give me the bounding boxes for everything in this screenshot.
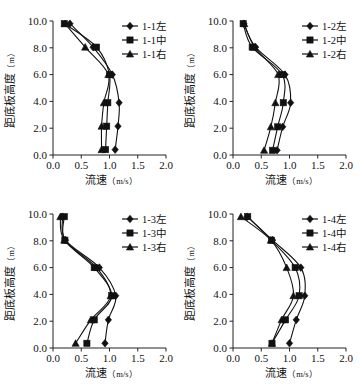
data-point-1-4右: [283, 264, 290, 271]
x-tick-label: 1.5: [131, 159, 145, 171]
series-line-1-1中: [64, 24, 110, 150]
legend-marker-diamond: [307, 22, 313, 30]
y-tick-label: 2.0: [33, 315, 47, 327]
x-tick-label: 1.0: [283, 352, 297, 364]
data-point-1-2右: [260, 147, 267, 154]
x-axis-title: 流速（m/s）: [265, 366, 317, 379]
chart-panel-1-1: 0.02.04.06.08.010.00.00.51.01.52.0流速（m/s…: [0, 0, 180, 193]
legend-label-1-4左: 1-4左: [322, 213, 346, 225]
x-tick-label: 0.0: [226, 159, 240, 171]
legend-marker-diamond: [307, 215, 313, 223]
y-tick-label: 6.0: [213, 68, 227, 80]
data-point-1-4中: [292, 265, 298, 271]
x-tick-label: 0.5: [74, 159, 88, 171]
data-point-1-2中: [280, 100, 286, 106]
chart-panel-1-3: 0.02.04.06.08.010.00.00.51.01.52.0流速（m/s…: [0, 193, 180, 386]
y-tick-label: 10.0: [28, 208, 48, 220]
x-tick-label: 0.5: [254, 352, 268, 364]
legend-label-1-4右: 1-4右: [322, 241, 346, 253]
x-tick-label: 0.0: [46, 159, 60, 171]
series-line-1-1左: [70, 24, 119, 150]
data-point-1-2右: [267, 123, 274, 130]
data-point-1-1左: [112, 146, 118, 154]
data-point-1-1左: [116, 99, 122, 107]
y-tick-label: 4.0: [33, 95, 47, 107]
chart-panel-1-4: 0.02.04.06.08.010.00.00.51.01.52.0流速（m/s…: [180, 193, 360, 386]
x-axis-title: 流速（m/s）: [265, 173, 317, 186]
legend-label-1-1左: 1-1左: [142, 20, 166, 32]
x-tick-label: 0.5: [74, 352, 88, 364]
legend-marker-square: [127, 37, 133, 43]
x-axis-title: 流速（m/s）: [85, 366, 137, 379]
y-tick-label: 10.0: [28, 15, 48, 27]
series-line-1-2左: [244, 24, 291, 151]
legend-label-1-3中: 1-3中: [142, 227, 166, 239]
x-tick-label: 0.5: [254, 159, 268, 171]
data-point-1-4左: [302, 292, 308, 300]
x-tick-label: 1.0: [103, 159, 117, 171]
y-axis-title: 距底板高度（m）: [3, 48, 16, 128]
plot-area-1-1: 0.02.04.06.08.010.00.00.51.01.52.0流速（m/s…: [0, 0, 180, 193]
legend-marker-square: [307, 37, 313, 43]
legend: 1-2左1-2中1-2右: [302, 20, 346, 60]
y-tick-label: 6.0: [33, 261, 47, 273]
plot-area-1-2: 0.02.04.06.08.010.00.00.51.01.52.0流速（m/s…: [180, 0, 360, 193]
legend-marker-square: [307, 230, 313, 236]
series-line-1-3右: [60, 217, 110, 344]
legend-label-1-3右: 1-3右: [142, 241, 166, 253]
y-tick-label: 2.0: [33, 122, 47, 134]
chart-panel-1-2: 0.02.04.06.08.010.00.00.51.01.52.0流速（m/s…: [180, 0, 360, 193]
y-tick-label: 8.0: [33, 235, 47, 247]
legend-label-1-3左: 1-3左: [142, 213, 166, 225]
data-point-1-2右: [272, 99, 279, 106]
x-tick-label: 1.0: [103, 352, 117, 364]
y-tick-label: 8.0: [33, 42, 47, 54]
data-point-1-1左: [115, 122, 121, 130]
x-tick-label: 1.5: [311, 159, 325, 171]
series-line-1-3左: [62, 217, 116, 344]
y-tick-label: 2.0: [213, 122, 227, 134]
y-tick-label: 6.0: [213, 261, 227, 273]
y-tick-label: 6.0: [33, 68, 47, 80]
y-tick-label: 2.0: [213, 315, 227, 327]
legend-label-1-2左: 1-2左: [322, 20, 346, 32]
legend-label-1-2中: 1-2中: [322, 34, 346, 46]
y-tick-label: 4.0: [213, 288, 227, 300]
data-point-1-4中: [245, 214, 251, 220]
x-axis-title: 流速（m/s）: [85, 173, 137, 186]
x-tick-label: 0.0: [226, 352, 240, 364]
legend: 1-3左1-3中1-3右: [122, 213, 166, 253]
series-line-1-4中: [248, 217, 300, 344]
series-line-1-1右: [65, 24, 109, 150]
y-tick-label: 10.0: [208, 208, 228, 220]
y-tick-label: 8.0: [213, 42, 227, 54]
y-axis-title: 距底板高度（m）: [3, 241, 16, 321]
data-point-1-4右: [237, 213, 244, 220]
y-tick-label: 10.0: [208, 15, 228, 27]
plot-area-1-4: 0.02.04.06.08.010.00.00.51.01.52.0流速（m/s…: [180, 193, 360, 386]
y-tick-label: 8.0: [213, 235, 227, 247]
series-line-1-4左: [247, 217, 305, 344]
x-tick-label: 2.0: [339, 159, 353, 171]
x-tick-label: 1.5: [131, 352, 145, 364]
y-tick-label: 4.0: [33, 288, 47, 300]
data-point-1-1中: [93, 44, 99, 50]
data-point-1-3左: [105, 316, 111, 324]
chart-grid: 0.02.04.06.08.010.00.00.51.01.52.0流速（m/s…: [0, 0, 360, 386]
data-point-1-2中: [275, 124, 281, 130]
legend-label-1-1右: 1-1右: [142, 48, 166, 60]
plot-area-1-3: 0.02.04.06.08.010.00.00.51.01.52.0流速（m/s…: [0, 193, 180, 386]
x-tick-label: 1.0: [283, 159, 297, 171]
y-axis-title: 距底板高度（m）: [183, 241, 196, 321]
data-point-1-2中: [269, 147, 275, 153]
data-point-1-3右: [72, 340, 79, 347]
legend: 1-4左1-4中1-4右: [302, 213, 346, 253]
x-tick-label: 2.0: [159, 352, 173, 364]
data-point-1-4左: [293, 316, 299, 324]
legend-label-1-1中: 1-1中: [142, 34, 166, 46]
x-tick-label: 0.0: [46, 352, 60, 364]
legend: 1-1左1-1中1-1右: [122, 20, 166, 60]
data-point-1-3左: [102, 340, 108, 348]
x-tick-label: 1.5: [311, 352, 325, 364]
legend-marker-square: [127, 230, 133, 236]
